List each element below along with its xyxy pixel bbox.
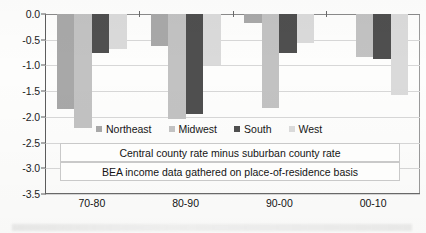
bar-rect[interactable]	[74, 14, 92, 128]
bar-chart: 0.0-0.5-1.0-1.5-2.0-2.5-3.0-3.5 70-8080-…	[0, 0, 426, 233]
bar-rect[interactable]	[391, 14, 409, 95]
y-axis-labels: 0.0-0.5-1.0-1.5-2.0-2.5-3.0-3.5	[0, 0, 40, 233]
bar-rect[interactable]	[297, 14, 315, 43]
bar-rect[interactable]	[203, 14, 221, 65]
annotation-box-1: Central county rate minus suburban count…	[60, 143, 400, 162]
annotation-text-1: Central county rate minus suburban count…	[119, 147, 340, 159]
x-axis-tick-label: 00-10	[360, 198, 387, 209]
x-axis-tick-label: 80-90	[172, 198, 199, 209]
bar-rect[interactable]	[186, 14, 204, 114]
legend-swatch-icon	[96, 126, 102, 132]
bar-rect[interactable]	[373, 14, 391, 59]
y-axis-tick-label: -1.0	[2, 60, 40, 71]
chart-legend: NortheastMidwestSouthWest	[96, 124, 339, 135]
legend-item-west[interactable]: West	[289, 124, 323, 135]
legend-label: South	[244, 124, 271, 135]
x-axis-tick-mark	[233, 11, 234, 17]
y-axis-tick-label: -2.0	[2, 112, 40, 123]
gridline	[45, 194, 420, 195]
y-axis-tick-label: 0.0	[2, 9, 40, 20]
y-axis-tick-label: -1.5	[2, 86, 40, 97]
y-axis-tick-label: -3.0	[2, 163, 40, 174]
legend-item-northeast[interactable]: Northeast	[96, 124, 152, 135]
bar-rect[interactable]	[262, 14, 280, 108]
y-axis-tick-label: -2.5	[2, 137, 40, 148]
legend-item-south[interactable]: South	[234, 124, 271, 135]
x-axis-tick-mark	[139, 11, 140, 17]
x-axis-tick-label: 90-00	[266, 198, 293, 209]
legend-item-midwest[interactable]: Midwest	[169, 124, 218, 135]
annotation-box-2: BEA income data gathered on place-of-res…	[60, 162, 400, 181]
bar-rect[interactable]	[92, 14, 110, 53]
legend-swatch-icon	[234, 126, 240, 132]
bar-rect[interactable]	[244, 14, 262, 23]
annotation-text-2: BEA income data gathered on place-of-res…	[102, 166, 358, 178]
x-axis-tick-mark	[326, 11, 327, 17]
x-axis-tick-label: 70-80	[78, 198, 105, 209]
chart-page: 0.0-0.5-1.0-1.5-2.0-2.5-3.0-3.5 70-8080-…	[0, 0, 426, 233]
x-axis-labels: 70-8080-9090-0000-10	[45, 198, 420, 214]
scan-artifact	[12, 224, 412, 231]
legend-label: Midwest	[179, 124, 218, 135]
y-axis-tick-label: -3.5	[2, 189, 40, 200]
legend-label: West	[299, 124, 323, 135]
bar-rect[interactable]	[57, 14, 75, 109]
legend-label: Northeast	[106, 124, 152, 135]
legend-swatch-icon	[289, 126, 295, 132]
bar-rect[interactable]	[168, 14, 186, 119]
bar-rect[interactable]	[151, 14, 169, 46]
bar-rect[interactable]	[109, 14, 127, 49]
legend-swatch-icon	[169, 126, 175, 132]
bar-rect[interactable]	[279, 14, 297, 53]
y-axis-tick-label: -0.5	[2, 34, 40, 45]
bar-rect[interactable]	[356, 14, 374, 57]
